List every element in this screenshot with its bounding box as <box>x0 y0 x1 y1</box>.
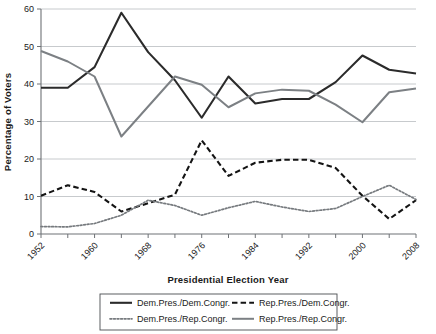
legend-label-1: Rep.Pres./Dem.Congr. <box>259 298 350 308</box>
x-tick-label-2000: 2000 <box>347 240 368 261</box>
y-axis-ticks-group <box>37 9 41 234</box>
x-tick-label-2008: 2008 <box>400 240 421 261</box>
y-tick-label-40: 40 <box>24 79 34 89</box>
y-tick-label-30: 30 <box>24 117 34 127</box>
y-tick-label-10: 10 <box>24 192 34 202</box>
x-tick-label-1984: 1984 <box>239 240 260 261</box>
y-tick-labels-group: 0102030405060 <box>24 4 34 239</box>
legend-label-2: Dem.Pres./Rep.Congr. <box>137 314 228 324</box>
x-tick-label-1960: 1960 <box>79 240 100 261</box>
legend-label-0: Dem.Pres./Dem.Congr. <box>137 298 230 308</box>
x-tick-labels-group: 19521960196819761984199220002008 <box>25 240 421 261</box>
y-tick-label-0: 0 <box>29 229 34 239</box>
x-tick-label-1976: 1976 <box>186 240 207 261</box>
y-tick-label-50: 50 <box>24 42 34 52</box>
legend: Dem.Pres./Dem.Congr.Rep.Pres./Dem.Congr.… <box>100 294 350 330</box>
y-tick-label-20: 20 <box>24 154 34 164</box>
y-tick-label-60: 60 <box>24 4 34 14</box>
x-axis-ticks-group <box>41 234 416 238</box>
line-chart-figure: 0102030405060 19521960196819761984199220… <box>0 0 436 334</box>
x-tick-label-1968: 1968 <box>132 240 153 261</box>
y-axis-label: Percentage of Voters <box>2 73 13 171</box>
x-axis-label: Presidential Election Year <box>167 274 288 285</box>
chart-canvas: 0102030405060 19521960196819761984199220… <box>0 0 436 334</box>
legend-label-3: Rep.Pres./Rep.Congr. <box>259 314 347 324</box>
x-tick-label-1992: 1992 <box>293 240 314 261</box>
x-tick-label-1952: 1952 <box>25 240 46 261</box>
